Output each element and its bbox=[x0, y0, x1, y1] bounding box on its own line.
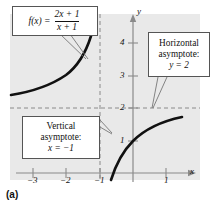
y-tick-label-4: 4 bbox=[120, 37, 125, 47]
x-tick-label-neg3: −3 bbox=[27, 175, 38, 185]
vertical-callout-line2: asymptote: bbox=[41, 132, 82, 143]
x-tick-label-neg1: −1 bbox=[94, 175, 105, 185]
function-fraction: 2x + 1 x + 1 bbox=[53, 10, 82, 32]
y-axis-label: y bbox=[137, 6, 141, 16]
horizontal-callout-line2: asymptote: bbox=[159, 49, 200, 60]
x-tick-label-pos1: 1 bbox=[164, 175, 169, 185]
function-denominator: x + 1 bbox=[55, 21, 79, 33]
x-tick-label-neg2: −2 bbox=[60, 175, 71, 185]
vertical-callout-line1: Vertical bbox=[47, 121, 76, 132]
y-tick-label-3: 3 bbox=[120, 70, 125, 80]
y-axis-arrowhead bbox=[130, 14, 136, 22]
horizontal-callout-line1: Horizontal bbox=[159, 38, 199, 49]
vertical-callout-equation: x = −1 bbox=[48, 143, 74, 154]
figure-caption: (a) bbox=[6, 189, 18, 200]
horizontal-asymptote-callout: Horizontal asymptote: y = 2 bbox=[148, 32, 210, 77]
function-numerator: 2x + 1 bbox=[53, 10, 82, 21]
x-axis-label: x bbox=[190, 166, 194, 176]
vertical-asymptote-callout: Vertical asymptote: x = −1 bbox=[22, 116, 100, 159]
curve-right-branch bbox=[111, 117, 182, 180]
y-tick-label-2: 2 bbox=[120, 102, 125, 112]
figure-container: x y −3 −2 −1 1 1 2 3 4 f(x) = 2x + 1 x +… bbox=[0, 0, 212, 210]
leader-vertical-a bbox=[100, 120, 112, 133]
function-label-callout: f(x) = 2x + 1 x + 1 bbox=[12, 6, 98, 36]
horizontal-callout-equation: y = 2 bbox=[169, 60, 189, 71]
y-tick-label-1: 1 bbox=[120, 135, 125, 145]
function-lhs: f(x) = bbox=[29, 16, 51, 27]
